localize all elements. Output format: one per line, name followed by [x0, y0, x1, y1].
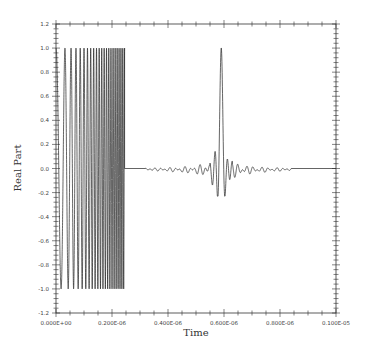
line-chart: -1.2-1.0-0.8-0.6-0.4-0.20.00.20.40.60.81…	[0, 0, 369, 354]
y-tick-label: 0.2	[40, 141, 49, 147]
y-tick-label: -0.4	[38, 214, 49, 220]
y-tick-label: -0.2	[38, 190, 49, 196]
x-tick-label: 0.400E-06	[154, 320, 183, 326]
y-tick-label: 1.2	[40, 21, 49, 27]
x-tick-label: 0.100E-05	[322, 320, 351, 326]
y-axis-label: Real Part	[12, 145, 23, 192]
y-tick-label: -1.0	[38, 286, 49, 292]
x-tick-label: 0.000E+00	[41, 320, 72, 326]
y-tick-label: -1.2	[38, 310, 49, 316]
y-tick-label: 0.6	[40, 93, 49, 99]
y-tick-label: 0.8	[40, 69, 49, 75]
x-axis-label: Time	[183, 327, 208, 338]
y-tick-label: 1.0	[40, 45, 49, 51]
x-tick-label: 0.800E-06	[266, 320, 295, 326]
y-tick-label: 0.4	[40, 117, 49, 123]
real-part-series-line	[56, 48, 336, 289]
y-tick-label: -0.6	[38, 238, 49, 244]
x-tick-label: 0.600E-06	[210, 320, 239, 326]
y-tick-label: -0.8	[38, 262, 49, 268]
y-tick-label: 0.0	[40, 166, 49, 172]
x-tick-label: 0.200E-06	[98, 320, 127, 326]
